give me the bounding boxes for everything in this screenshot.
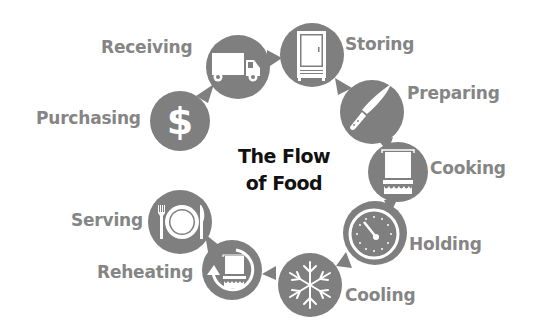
arrow-holding-to-cooling [336,252,352,268]
step-receiving [206,35,270,99]
title-line-1: The Flow [214,143,354,170]
label-serving: Serving [71,210,143,230]
svg-text:$: $ [167,99,193,143]
step-storing [280,23,344,87]
arrow-cooling-to-reheating [262,266,276,280]
step-cooling [278,253,342,317]
title-line-2: of Food [214,170,354,197]
step-reheating [202,240,262,300]
label-reheating: Reheating [97,262,193,282]
step-serving [148,190,212,254]
thermometer-gauge-icon [350,210,398,258]
step-cooking [368,142,428,202]
step-purchasing: $ [150,91,210,151]
diagram-title: The Flow of Food [214,143,354,197]
dollar-icon: $ [167,99,193,143]
label-cooking: Cooking [430,158,506,178]
step-holding [343,201,407,265]
label-preparing: Preparing [407,83,500,103]
label-holding: Holding [409,234,482,254]
label-cooling: Cooling [345,285,415,305]
label-receiving: Receiving [101,37,192,57]
label-storing: Storing [345,34,414,54]
refrigerator-icon [297,31,326,81]
label-purchasing: Purchasing [36,108,141,128]
step-preparing [340,80,404,144]
